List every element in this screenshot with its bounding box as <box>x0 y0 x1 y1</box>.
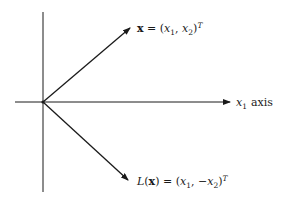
reflection-diagram: x = (x1, x2)T x1axis L(x) = (x1, −x2)T <box>0 0 287 204</box>
vector-Lx-arrow <box>43 102 128 180</box>
vector-x-label: x = (x1, x2)T <box>137 21 203 37</box>
vector-Lx-label: L(x) = (x1, −x2)T <box>136 174 228 190</box>
vector-x-arrow <box>43 28 130 102</box>
horizontal-axis-label: x1axis <box>236 96 273 111</box>
origin-point <box>41 100 44 103</box>
